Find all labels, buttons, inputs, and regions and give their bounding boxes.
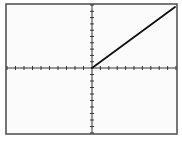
ramp-function-chart (0, 0, 182, 141)
